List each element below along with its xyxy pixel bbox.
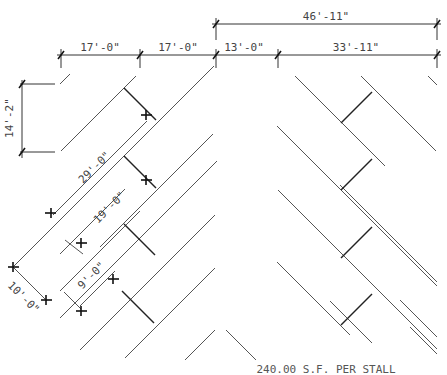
dimension-label-vertical: 14'-2" — [3, 98, 16, 138]
dimension-label-19ft: 19'-0" — [91, 189, 128, 226]
dimension-label-10ft: 10'-0" — [5, 279, 42, 316]
footer-area-per-stall: 240.00 S.F. PER STALL — [256, 363, 395, 375]
parking-layout-drawing: 46'-11" 17'-0" 17'-0" 13'-0" 33'-11" 14'… — [0, 0, 447, 375]
dimension-label-segment-2: 17'-0" — [158, 41, 198, 54]
dimension-label-segment-1: 17'-0" — [80, 41, 120, 54]
dimension-label-segment-4: 33'-11" — [333, 41, 379, 54]
dimension-vertical-left: 14'-2" — [3, 80, 55, 158]
dimension-label-29ft: 29'-0" — [76, 149, 113, 186]
dimension-row-segments: 17'-0" 17'-0" 13'-0" 33'-11" — [57, 41, 441, 68]
left-stall-block: 29'-0" 19'-0" 9'-0" 10'-0" — [5, 66, 217, 360]
right-stall-block — [226, 76, 437, 360]
dimension-overall-top: 46'-11" — [212, 10, 441, 40]
dimension-label-segment-3: 13'-0" — [224, 41, 264, 54]
dimension-label-overall: 46'-11" — [303, 10, 349, 23]
